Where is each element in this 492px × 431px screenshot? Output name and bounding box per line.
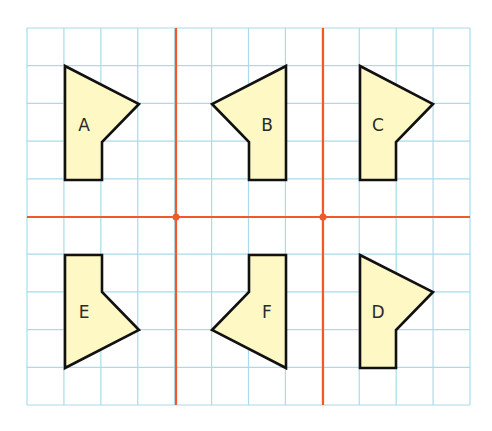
shape-label: D bbox=[371, 302, 384, 322]
shape-label: A bbox=[78, 115, 90, 135]
intersection-dot bbox=[173, 214, 180, 221]
shape-label: B bbox=[261, 115, 273, 135]
shape-a: A bbox=[65, 66, 139, 180]
shape-label: E bbox=[79, 302, 90, 322]
intersection-dot bbox=[320, 214, 327, 221]
shape-polygon bbox=[65, 66, 139, 180]
shape-e: E bbox=[65, 255, 139, 368]
shape-label: C bbox=[372, 115, 384, 135]
shape-label: F bbox=[262, 302, 272, 322]
reflection-grid-diagram: ABCEFD bbox=[0, 0, 492, 431]
shape-polygon bbox=[65, 255, 139, 368]
